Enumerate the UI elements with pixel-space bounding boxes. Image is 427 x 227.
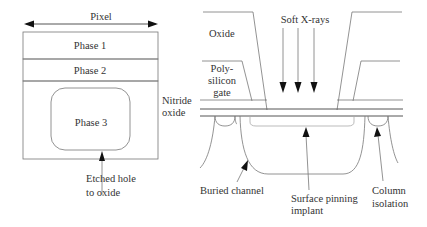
phase3-label: Phase 3 — [75, 117, 107, 128]
etched-label-line1: Etched hole — [86, 173, 136, 184]
column-isolation-left — [215, 116, 235, 126]
column-label-line1: Column — [372, 185, 407, 196]
column-isolation-arrow-icon — [374, 127, 381, 137]
column-label-line2: isolation — [372, 198, 409, 209]
poly-label-line3: gate — [213, 87, 231, 98]
surface-pinning-pointer — [306, 135, 309, 190]
poly-gate-right-edge — [353, 61, 400, 101]
nitride-label-line2: oxide — [162, 107, 186, 118]
pixel-label: Pixel — [90, 11, 112, 22]
isolation-left-outer — [200, 116, 215, 168]
surface-label-line2: implant — [291, 205, 323, 216]
buried-channel-arrow-icon — [241, 160, 248, 171]
poly-label-line1: Poly- — [211, 63, 234, 74]
xray-arrow-1-icon — [280, 82, 287, 93]
xray-arrow-2-icon — [295, 82, 302, 93]
pixel-cross-section: Oxide Poly- silicon gate Nitride oxide S… — [162, 12, 409, 216]
buried-channel-region — [240, 116, 365, 174]
pixel-arrow-right-icon — [148, 21, 158, 28]
surface-label-line1: Surface pinning — [291, 193, 359, 204]
surface-pinning-arrow-icon — [303, 127, 310, 137]
isolation-right-outer — [388, 116, 398, 163]
nitride-label-line1: Nitride — [162, 95, 192, 106]
ccd-pixel-diagram: Pixel Phase 1 Phase 2 Phase 3 Etched hol… — [0, 0, 427, 227]
oxide-label: Oxide — [209, 28, 235, 39]
surface-pinning-implant-region — [250, 116, 354, 126]
buried-label: Buried channel — [200, 185, 264, 196]
etched-hole-arrow-icon — [99, 151, 105, 161]
pixel-top-view: Pixel Phase 1 Phase 2 Phase 3 Etched hol… — [23, 11, 158, 198]
etched-label-line2: to oxide — [86, 187, 120, 198]
phase1-label: Phase 1 — [74, 40, 106, 51]
isolation-left-inner — [235, 116, 237, 124]
xray-arrow-3-icon — [311, 82, 318, 93]
phase2-label: Phase 2 — [74, 65, 106, 76]
column-isolation-right — [368, 116, 388, 126]
column-isolation-pointer — [378, 135, 383, 181]
pixel-arrow-left-icon — [24, 21, 34, 28]
xray-label: Soft X-rays — [281, 14, 330, 25]
poly-label-line2: silicon — [208, 75, 237, 86]
